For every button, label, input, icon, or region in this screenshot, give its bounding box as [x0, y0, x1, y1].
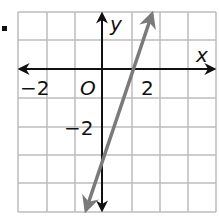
y-axis-label: y — [110, 14, 122, 34]
graphed-line — [86, 14, 152, 210]
grid — [18, 12, 216, 212]
tick-x-neg2: −2 — [20, 78, 49, 98]
tick-x-pos2: 2 — [141, 78, 154, 98]
origin-label: O — [80, 78, 96, 98]
x-axis-label: x — [196, 45, 208, 65]
tick-y-neg2: −2 — [64, 118, 93, 138]
